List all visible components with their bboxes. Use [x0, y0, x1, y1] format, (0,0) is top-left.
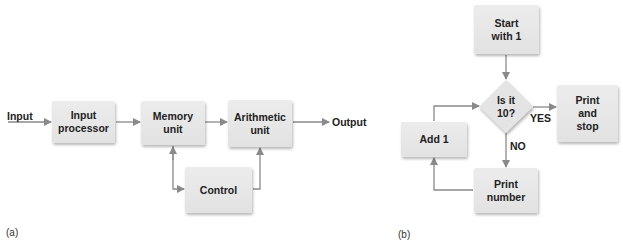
start-label: Start with 1 [492, 17, 522, 43]
output-label: Output [332, 116, 366, 128]
print-number-box: Print number [474, 168, 538, 213]
print-and-stop-label: Print and stop [576, 94, 600, 133]
control-label: Control [200, 184, 237, 197]
caption-b: (b) [398, 229, 410, 240]
print-and-stop-box: Print and stop [557, 85, 618, 142]
yes-label: YES [530, 112, 551, 124]
add-to-decision-arrow [434, 106, 479, 121]
memory-unit-label: Memory unit [153, 110, 193, 136]
add-one-box: Add 1 [401, 122, 467, 157]
start-box: Start with 1 [474, 5, 539, 54]
input-processor-label: Input processor [58, 109, 109, 135]
input-processor-box: Input processor [52, 101, 115, 143]
caption-a: (a) [6, 227, 18, 238]
control-to-arithmetic-arrow [253, 148, 260, 189]
input-label: Input [7, 110, 33, 122]
memory-unit-box: Memory unit [141, 101, 205, 145]
memory-control-bidirectional-arrow [173, 146, 184, 189]
control-box: Control [185, 167, 252, 213]
decision-label: Is it 10? [486, 94, 526, 120]
arithmetic-unit-label: Arithmetic unit [234, 111, 286, 137]
arithmetic-unit-box: Arithmetic unit [228, 100, 292, 147]
print-number-label: Print number [487, 178, 526, 204]
add-one-label: Add 1 [419, 133, 448, 146]
print-to-add-arrow [434, 158, 473, 190]
no-label: NO [510, 140, 526, 152]
